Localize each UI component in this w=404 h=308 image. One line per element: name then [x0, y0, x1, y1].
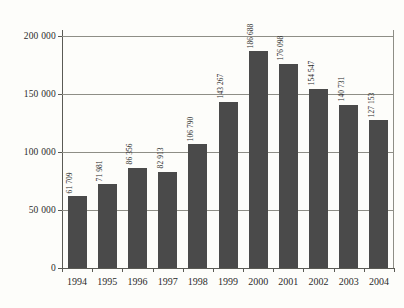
x-tick-mark: [92, 268, 93, 272]
y-axis-line: [62, 30, 63, 268]
bar-slot: 154 547: [309, 30, 328, 268]
bar-slot: 140 731: [339, 30, 358, 268]
x-tick-mark: [303, 268, 304, 272]
bar: [249, 51, 268, 268]
x-tick-mark: [273, 268, 274, 272]
bar-slot: 186 688: [249, 30, 268, 268]
x-axis-label-1994: 1994: [67, 276, 87, 287]
x-axis-label-2002: 2002: [309, 276, 329, 287]
x-tick-mark: [122, 268, 123, 272]
y-tick-mark: [58, 36, 62, 37]
x-tick-mark: [183, 268, 184, 272]
y-tick-label: 0: [51, 263, 56, 273]
x-axis-label-2000: 2000: [248, 276, 268, 287]
bar-value-label: 154 547: [307, 61, 314, 86]
x-tick-mark: [243, 268, 244, 272]
y-tick-label: 200 000: [24, 31, 56, 41]
bar: [128, 168, 147, 268]
plot-area: 61 70971 98186 35682 913106 790143 26718…: [62, 30, 394, 268]
bar: [188, 144, 207, 268]
x-axis-label-1996: 1996: [127, 276, 147, 287]
bar-value-label: 143 267: [217, 74, 224, 99]
bar-value-label: 176 098: [277, 36, 284, 61]
y-tick-mark: [58, 152, 62, 153]
x-tick-mark: [334, 268, 335, 272]
x-tick-mark: [364, 268, 365, 272]
bar-slot: 71 981: [98, 30, 117, 268]
x-axis-label-2003: 2003: [339, 276, 359, 287]
bar-slot: 82 913: [158, 30, 177, 268]
bar-chart: 61 70971 98186 35682 913106 790143 26718…: [0, 0, 404, 308]
bar: [158, 172, 177, 268]
x-tick-mark: [213, 268, 214, 272]
x-axis-label-1999: 1999: [218, 276, 238, 287]
bar-value-label: 82 913: [157, 148, 164, 169]
x-axis-label-1998: 1998: [188, 276, 208, 287]
x-axis-label-1995: 1995: [97, 276, 117, 287]
bar-slot: 61 709: [68, 30, 87, 268]
bar-slot: 86 356: [128, 30, 147, 268]
y-tick-mark: [58, 210, 62, 211]
bar-value-label: 86 356: [126, 144, 133, 165]
bar: [219, 102, 238, 268]
y-tick-mark: [58, 94, 62, 95]
x-axis-label-1997: 1997: [158, 276, 178, 287]
plot-right-border: [393, 30, 394, 268]
x-tick-mark: [394, 268, 395, 272]
y-tick-label: 150 000: [24, 89, 56, 99]
x-tick-mark: [153, 268, 154, 272]
bar-slot: 127 153: [369, 30, 388, 268]
bar: [98, 184, 117, 268]
bar: [309, 89, 328, 268]
y-tick-label: 100 000: [24, 147, 56, 157]
bar: [68, 196, 87, 268]
bar-value-label: 71 981: [96, 161, 103, 182]
x-axis-label-2001: 2001: [278, 276, 298, 287]
bar-slot: 143 267: [219, 30, 238, 268]
x-axis-label-2004: 2004: [369, 276, 389, 287]
bar-value-label: 61 709: [66, 172, 73, 193]
bar: [279, 64, 298, 268]
x-tick-mark: [62, 268, 63, 272]
bar-value-label: 140 731: [338, 77, 345, 102]
bar-slot: 176 098: [279, 30, 298, 268]
bar: [339, 105, 358, 268]
bar-value-label: 186 688: [247, 24, 254, 49]
bar-value-label: 106 790: [187, 116, 194, 141]
bar-value-label: 127 153: [368, 93, 375, 118]
gridline-0: [62, 268, 394, 269]
bar: [369, 120, 388, 268]
bar-slot: 106 790: [188, 30, 207, 268]
y-tick-label: 50 000: [29, 205, 56, 215]
